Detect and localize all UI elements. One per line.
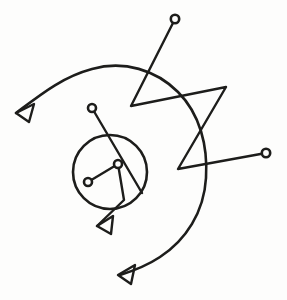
node-right <box>262 149 270 157</box>
canvas-background <box>0 0 287 300</box>
line-drawing-svg <box>0 0 287 300</box>
sketch-canvas <box>0 0 287 300</box>
node-top-right <box>171 15 179 23</box>
node-inner-left <box>84 178 92 186</box>
node-upper-left-stem <box>88 104 96 112</box>
node-inner-apex <box>114 160 122 168</box>
